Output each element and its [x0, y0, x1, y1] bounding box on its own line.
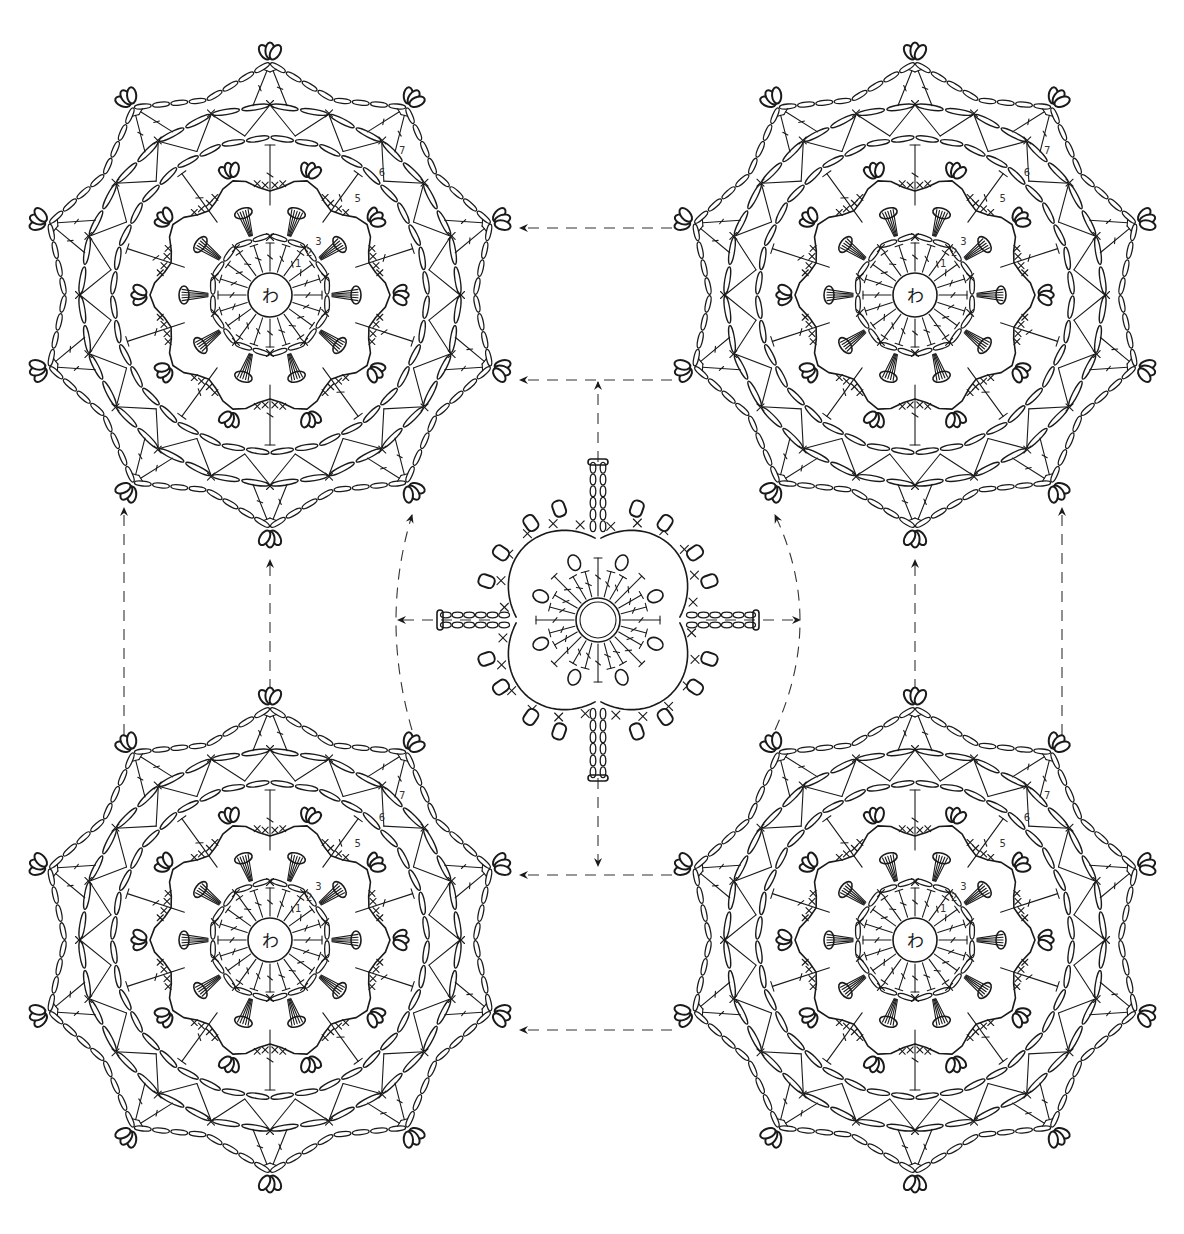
crochet-diagram: わ123567わ123567わ123567わ123567 [0, 0, 1184, 1234]
round-number-label: 6 [379, 812, 385, 823]
round-number-label: 1 [295, 903, 301, 914]
center-ring-label: わ [907, 931, 924, 951]
joining-guides [124, 228, 1062, 1030]
round-number-label: 3 [315, 236, 321, 247]
round-number-label: 2 [951, 247, 957, 258]
round-number-label: 2 [306, 247, 312, 258]
motif-top-left: わ123567 [28, 43, 511, 548]
round-number-label: 7 [399, 790, 405, 801]
round-number-label: 1 [295, 258, 301, 269]
round-number-label: 5 [354, 193, 360, 204]
large-motifs: わ123567わ123567わ123567わ123567 [28, 43, 1156, 1193]
center-ring-label: わ [262, 931, 279, 951]
round-number-label: 1 [940, 258, 946, 269]
round-number-label: 7 [399, 145, 405, 156]
round-number-label: 3 [315, 881, 321, 892]
round-number-label: 6 [1024, 167, 1030, 178]
round-number-label: 5 [354, 838, 360, 849]
round-number-label: 3 [960, 881, 966, 892]
curved-join-guide [396, 515, 412, 730]
center-ring-label: わ [907, 286, 924, 306]
round-number-label: 3 [960, 236, 966, 247]
round-number-label: 5 [999, 838, 1005, 849]
round-number-label: 2 [951, 892, 957, 903]
motif-bottom-right: わ123567 [673, 688, 1156, 1193]
round-number-label: 1 [940, 903, 946, 914]
round-number-label: 7 [1044, 790, 1050, 801]
motif-top-right: わ123567 [673, 43, 1156, 548]
motif-bottom-left: わ123567 [28, 688, 511, 1193]
round-number-label: 7 [1044, 145, 1050, 156]
round-number-label: 5 [999, 193, 1005, 204]
round-number-label: 6 [1024, 812, 1030, 823]
round-number-label: 6 [379, 167, 385, 178]
round-number-label: 2 [306, 892, 312, 903]
curved-join-guide [775, 515, 800, 730]
center-ring-label: わ [262, 286, 279, 306]
